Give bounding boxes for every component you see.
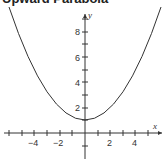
x-tick-label: 2 [107,138,112,148]
parabola-chart: −4 −2 2 4 2 4 6 8 x y [0,0,164,159]
y-tick-label: 2 [75,103,80,113]
x-tick-label: 4 [132,138,137,148]
y-tick-label: 4 [75,78,80,88]
x-tick-label: −2 [53,138,63,148]
y-tick-label: 8 [75,27,80,37]
x-tick-label: −4 [28,138,38,148]
x-axis-label: x [152,121,157,131]
y-axis-label: y [87,10,92,20]
y-tick-label: 6 [75,53,80,63]
